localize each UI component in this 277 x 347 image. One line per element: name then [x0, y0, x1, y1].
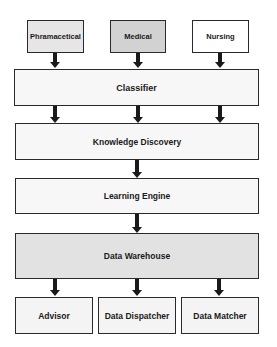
- output-data-matcher: Data Matcher: [181, 297, 259, 334]
- source-nursing: Nursing: [192, 20, 249, 53]
- knowledge-discovery-layer: Knowledge Discovery: [15, 123, 259, 160]
- classifier-layer: Classifier: [14, 69, 259, 106]
- data-warehouse-layer: Data Warehouse: [15, 233, 259, 279]
- output-data-dispatcher: Data Dispatcher: [98, 297, 176, 334]
- source-medical: Medical: [110, 20, 166, 53]
- learning-engine-layer: Learning Engine: [15, 178, 259, 214]
- output-advisor: Advisor: [15, 297, 93, 334]
- source-pharmaceutical: Phramacetical: [27, 20, 84, 53]
